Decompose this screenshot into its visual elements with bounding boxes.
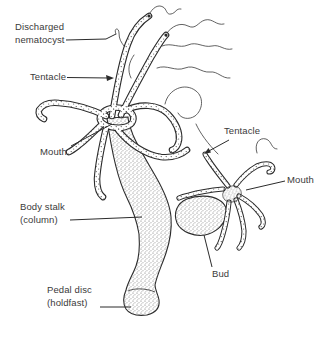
- leader-mouth-right: [246, 181, 285, 190]
- label-bud: Bud: [212, 268, 229, 281]
- label-pedal-disc: Pedal disc (holdfast): [47, 284, 92, 310]
- nematocyst-tip-dot: [147, 14, 150, 17]
- bud-mouth-region: [220, 183, 243, 205]
- nematocyst-tip-dot: [164, 33, 167, 36]
- arrowhead-tentacle-right: [204, 148, 211, 154]
- label-tentacle-right: Tentacle: [224, 125, 260, 138]
- label-discharged-nematocyst: Discharged nematocyst: [15, 21, 65, 47]
- label-line: Mouth: [287, 174, 314, 185]
- label-line: Mouth: [40, 146, 67, 157]
- hydra-anatomy-diagram: Discharged nematocyst Tentacle Mouth Bod…: [0, 0, 329, 339]
- label-line: Tentacle: [30, 71, 66, 82]
- label-line: nematocyst: [15, 34, 65, 45]
- label-tentacle-left: Tentacle: [30, 71, 66, 84]
- label-line: Tentacle: [224, 125, 260, 136]
- label-line: Discharged: [15, 21, 64, 32]
- bud-body: [175, 196, 226, 235]
- label-mouth-right: Mouth: [287, 174, 314, 187]
- leader-bud: [204, 235, 212, 267]
- label-line: Bud: [212, 268, 229, 279]
- leader-body-stalk: [70, 217, 142, 220]
- label-line: Pedal disc: [47, 284, 92, 295]
- label-line: (column): [20, 214, 58, 225]
- leader-tentacle-left: [67, 78, 109, 79]
- label-line: Body stalk: [20, 201, 65, 212]
- label-line: (holdfast): [47, 297, 88, 308]
- arrowhead-tentacle-left: [106, 75, 114, 81]
- label-body-stalk: Body stalk (column): [20, 201, 65, 227]
- label-mouth-left: Mouth: [40, 146, 67, 159]
- leader-discharged-nematocyst: [66, 34, 116, 40]
